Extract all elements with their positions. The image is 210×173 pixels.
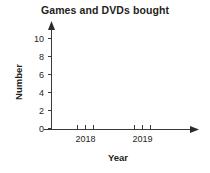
y-axis-title: Number — [13, 64, 24, 100]
x-axis-title: Year — [108, 152, 128, 163]
chart-container: Games and DVDs bought 0 2 4 6 8 10 2 — [0, 0, 210, 173]
y-tick-label-8: 8 — [39, 52, 44, 62]
y-tick-label-10: 10 — [34, 34, 44, 44]
y-tick-label-6: 6 — [39, 70, 44, 80]
chart-plot-svg: 0 2 4 6 8 10 2018 2019 Year Number — [0, 0, 210, 173]
x-tick-label-2019: 2019 — [132, 134, 152, 144]
x-axis-arrow-icon — [190, 126, 199, 133]
y-tick-label-0: 0 — [39, 124, 44, 134]
y-tick-label-2: 2 — [39, 106, 44, 116]
y-tick-label-4: 4 — [39, 88, 44, 98]
y-axis-arrow-icon — [48, 21, 55, 30]
x-tick-label-2018: 2018 — [75, 134, 95, 144]
